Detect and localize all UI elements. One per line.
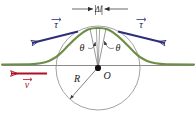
tau-right-label: τ [139,19,143,30]
physics-diagram-figure: Δl θ θ R O τ τ v [0,0,196,125]
theta-left-label: θ [80,42,85,53]
tau-left-label: τ [54,19,58,30]
theta-right-label: θ [116,42,121,53]
diagram-canvas: Δl θ θ R O τ τ v [0,0,196,125]
deformation-profile-curve [2,28,194,65]
theta-left-arc [88,42,95,49]
delta-l-label: Δl [94,5,103,14]
center-point [95,65,101,71]
velocity-label: v [25,79,30,90]
tau-right-vector [118,32,165,44]
radius-label: R [73,73,80,84]
theta-right-arc [104,41,114,49]
center-label: O [103,70,110,81]
